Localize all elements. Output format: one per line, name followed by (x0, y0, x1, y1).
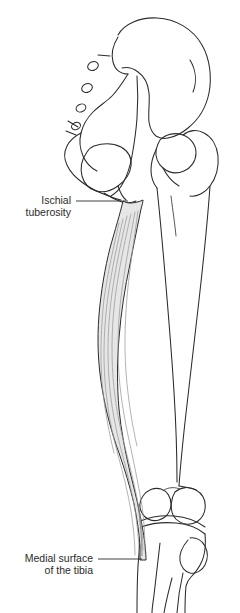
label-ischial-tuberosity-line1: Ischial (41, 194, 71, 206)
anatomy-figure: Ischial tuberosity Medial surface of the… (0, 0, 240, 613)
label-medial-surface-tibia-line1: Medial surface (25, 552, 93, 564)
label-medial-surface-tibia-line2: of the tibia (45, 564, 94, 576)
anatomy-illustration: Ischial tuberosity Medial surface of the… (0, 0, 240, 613)
label-ischial-tuberosity-line2: tuberosity (25, 206, 71, 218)
